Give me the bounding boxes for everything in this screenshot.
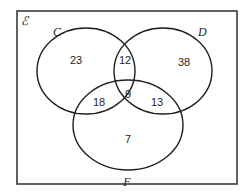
set-c-ellipse: [37, 28, 135, 114]
region-c-and-d: 12: [119, 54, 131, 66]
set-f-label: F: [122, 175, 131, 189]
set-d-label: D: [197, 25, 207, 39]
venn-diagram: ℰ C D F 23 12 38 18 9 13 7: [0, 0, 252, 193]
set-c-label: C: [53, 25, 62, 39]
region-c-and-f: 18: [93, 96, 105, 108]
region-d-and-f: 13: [151, 96, 163, 108]
universal-set-label: ℰ: [21, 14, 30, 28]
region-f-only: 7: [125, 133, 131, 145]
region-d-only: 38: [178, 56, 190, 68]
region-c-d-f: 9: [125, 88, 131, 100]
region-c-only: 23: [70, 54, 82, 66]
